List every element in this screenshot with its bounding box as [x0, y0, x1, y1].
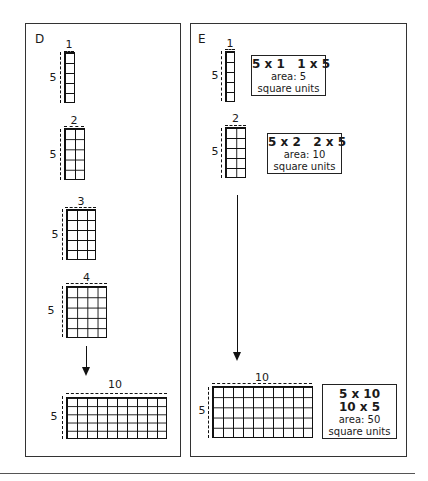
height-dimension-line [62, 396, 63, 439]
unit-grid-5x10 [66, 397, 167, 439]
height-label: 5 [50, 229, 60, 240]
height-dimension-line [60, 52, 61, 103]
height-label: 5 [197, 405, 207, 416]
width-label: 10 [252, 372, 272, 383]
height-dimension-line [60, 129, 61, 180]
panel-d-label: D [35, 32, 44, 46]
width-dimension-line [225, 49, 235, 50]
height-dimension-line [221, 51, 222, 101]
unit-grid-5x4 [66, 286, 107, 338]
area-info-box: 5 x 2 2 x 5 area: 10 square units [267, 133, 342, 174]
width-dimension-line [64, 126, 84, 127]
area-value: area: 5 [252, 71, 325, 83]
unit-grid-5x1 [64, 52, 75, 103]
area-value: area: 50 [323, 414, 396, 426]
unit-grid-5x3 [66, 209, 96, 260]
unit-grid-5x1 [225, 51, 235, 102]
height-label: 5 [210, 146, 220, 157]
height-dimension-line [62, 209, 63, 260]
width-label: 1 [64, 39, 74, 50]
width-label: 2 [64, 115, 84, 126]
height-label: 5 [49, 411, 59, 422]
width-dimension-line [66, 283, 107, 284]
width-label: 10 [100, 379, 130, 390]
width-label: 1 [225, 38, 235, 49]
area-value: area: 10 [268, 149, 341, 161]
dimension-expression: 5 x 2 2 x 5 [268, 136, 341, 149]
width-dimension-line [66, 393, 167, 394]
dimension-expression-alt: 10 x 5 [323, 401, 396, 414]
width-label: 3 [66, 196, 96, 207]
area-units: square units [323, 426, 396, 438]
area-info-box: 5 x 1 1 x 5 area: 5 square units [251, 55, 326, 96]
unit-grid-5x10 [212, 386, 313, 438]
dimension-expression: 5 x 1 1 x 5 [252, 58, 325, 71]
height-label: 5 [210, 70, 220, 81]
area-info-box: 5 x 10 10 x 5 area: 50 square units [322, 384, 397, 439]
height-dimension-line [221, 128, 222, 178]
height-dimension-line [208, 387, 209, 438]
width-label: 2 [225, 113, 246, 124]
height-label: 5 [46, 305, 56, 316]
width-dimension-line [212, 383, 312, 384]
width-label: 4 [66, 272, 107, 283]
panel-e-label: E [198, 32, 206, 46]
height-label: 5 [48, 149, 58, 160]
bottom-divider [0, 473, 415, 474]
width-dimension-line [225, 125, 246, 126]
area-units: square units [252, 83, 325, 95]
down-arrow-icon [237, 195, 238, 353]
unit-grid-5x2 [225, 127, 246, 178]
width-dimension-line [65, 207, 96, 208]
panel-d: D [25, 23, 181, 457]
height-label: 5 [48, 72, 58, 83]
height-dimension-line [62, 286, 63, 337]
unit-grid-5x2 [64, 128, 85, 180]
down-arrow-icon [86, 346, 87, 368]
area-units: square units [268, 161, 341, 173]
